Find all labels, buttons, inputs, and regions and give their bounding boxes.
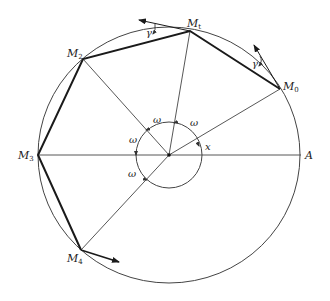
label-m2: M2 [66, 47, 83, 61]
gamma-label-m1: γ [146, 27, 152, 38]
center-point [167, 153, 171, 157]
omega-label-left-upper: ω [129, 134, 137, 145]
tangent-arrow-m4 [81, 250, 119, 262]
omega-label-top-left: ω [153, 114, 161, 125]
angle-arrow-tick [146, 129, 149, 130]
radius-m1 [169, 31, 190, 155]
gamma-label-m0: γ [252, 58, 258, 69]
label-m4: M4 [66, 252, 83, 266]
angle-arrow-tick [197, 142, 199, 146]
label-m3: M3 [17, 149, 34, 163]
label-m1: Mt [186, 17, 201, 31]
trajectory-polygon [38, 31, 280, 250]
omega-label-left-lower: ω [128, 168, 136, 179]
label-m0: M0 [282, 80, 299, 94]
omega-label-top-right: ω [190, 117, 198, 128]
label-a: A [304, 149, 313, 162]
gamma-arc-m1 [153, 24, 155, 34]
x-angle-label: x [205, 141, 211, 152]
circle-polygon-diagram: γ γ M0 Mt M2 M3 M4 A ω ω ω ω x [0, 0, 330, 301]
radius-m0 [169, 89, 280, 155]
radius-m2 [83, 59, 169, 155]
radius-m4 [81, 155, 169, 250]
